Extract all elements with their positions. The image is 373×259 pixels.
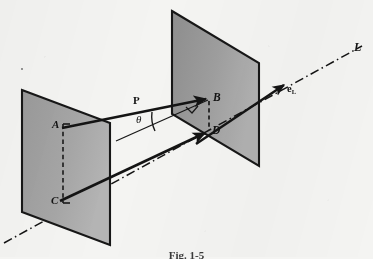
label-point-a: A [52, 119, 59, 130]
label-vector-p: P [133, 95, 140, 106]
label-angle-theta: θ [136, 114, 141, 125]
label-line-l: L [354, 41, 361, 53]
label-point-b: B [213, 92, 221, 104]
label-point-d: D [212, 125, 220, 137]
figure-caption: Fig. 1-5 [0, 249, 373, 259]
label-unit-vector: eL [287, 84, 296, 95]
scan-speck [21, 68, 23, 70]
unit-vector-subscript: L [292, 88, 296, 95]
left-plane [22, 90, 110, 245]
label-point-c: C [51, 195, 58, 206]
angle-arc [152, 112, 155, 131]
unit-vector-base: e [287, 83, 292, 94]
